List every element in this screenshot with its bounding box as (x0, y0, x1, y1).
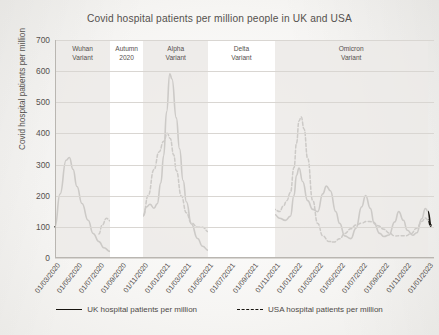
gridline (55, 40, 434, 41)
variant-annotation: Autumn 2020 (110, 45, 143, 62)
gridline (55, 133, 434, 134)
variant-annotation: Alpha Variant (143, 45, 208, 62)
legend-item-usa: USA hospital patients per million (237, 305, 383, 314)
legend-label-usa: USA hospital patients per million (268, 305, 383, 314)
y-axis-label: Covid hospital patients per million (18, 28, 27, 150)
y-tick-label: 0 (45, 253, 50, 263)
x-axis-line (55, 257, 434, 258)
y-tick-label: 100 (36, 222, 50, 232)
gridline (55, 227, 434, 228)
variant-band (275, 40, 428, 258)
gridline (55, 258, 434, 259)
variant-annotation: Wuhan Variant (55, 45, 110, 62)
legend-swatch-usa (237, 309, 263, 310)
variant-band (143, 40, 208, 258)
gridline (55, 196, 434, 197)
plot-area: 0100200300400500600700 01/03/202001/05/2… (55, 40, 434, 258)
variant-band (55, 40, 110, 258)
y-tick-label: 300 (36, 160, 50, 170)
gridline (55, 71, 434, 72)
chart-legend: UK hospital patients per million USA hos… (0, 305, 439, 314)
y-tick-label: 200 (36, 191, 50, 201)
y-tick-label: 700 (36, 35, 50, 45)
y-tick-label: 600 (36, 66, 50, 76)
variant-band (208, 40, 274, 258)
chart-figure: Covid hospital patients per million peop… (0, 0, 439, 335)
chart-title: Covid hospital patients per million peop… (0, 13, 439, 24)
y-axis-line (55, 40, 56, 258)
y-tick-label: 400 (36, 128, 50, 138)
gridline (55, 165, 434, 166)
gridline (55, 102, 434, 103)
legend-swatch-uk (56, 309, 82, 310)
legend-label-uk: UK hospital patients per million (87, 305, 197, 314)
variant-annotation: Omicron Variant (275, 45, 428, 62)
y-tick-label: 500 (36, 97, 50, 107)
variant-annotation: Delta Variant (208, 45, 274, 62)
legend-item-uk: UK hospital patients per million (56, 305, 197, 314)
variant-band (110, 40, 143, 258)
